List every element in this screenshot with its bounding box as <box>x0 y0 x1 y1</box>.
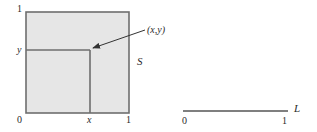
y-variable-label: y <box>16 44 22 55</box>
diagram-canvas: 1 y 0 x 1 (x,y) S 0 1 L <box>0 0 317 132</box>
x-variable-label: x <box>86 114 92 125</box>
unit-square-s <box>26 12 129 113</box>
segment-start-label: 0 <box>182 115 187 126</box>
x-axis-one-label: 1 <box>126 114 131 125</box>
y-axis-one-label: 1 <box>17 3 22 14</box>
square-outline <box>26 12 129 113</box>
segment-l-label: L <box>293 102 300 114</box>
origin-label: 0 <box>17 114 22 125</box>
point-xy-label: (x,y) <box>147 24 166 36</box>
segment-end-label: 1 <box>282 115 287 126</box>
set-s-label: S <box>137 55 143 67</box>
